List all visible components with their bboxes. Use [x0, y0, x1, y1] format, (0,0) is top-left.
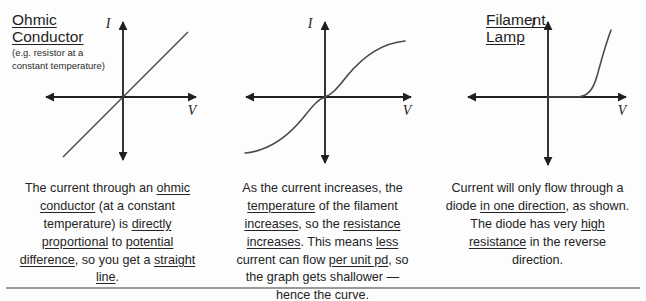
graph-filament-lamp: I V: [215, 0, 430, 178]
x-axis-label-diode: V: [618, 103, 628, 118]
curve-diode: [548, 30, 611, 97]
panel-subtitle-ohmic-line2: constant temperature): [12, 60, 105, 72]
graph-diode: I V: [430, 0, 645, 178]
panel-title-ohmic-line1: Ohmic: [12, 11, 105, 28]
panel-title-ohmic-line2: Conductor: [12, 28, 105, 45]
y-axis-label-ohmic: I: [105, 16, 112, 31]
panel-subtitle-ohmic-line1: (e.g. resistor at a: [12, 47, 105, 59]
iv-characteristics-figure: I V Ohmic Conductor (e.g. resistor at a …: [0, 0, 646, 301]
caption-diode: Current will only flow through a diode i…: [430, 178, 645, 283]
panel-title-ohmic: Ohmic Conductor (e.g. resistor at a cons…: [12, 11, 105, 71]
y-axis-label-filament: I: [307, 16, 314, 31]
panel-ohmic-conductor: I V Ohmic Conductor (e.g. resistor at a …: [0, 0, 215, 178]
footer-divider: [6, 287, 640, 289]
panel-diode: I V Diode: [430, 0, 645, 178]
x-axis-label-filament: V: [403, 103, 413, 118]
caption-row: The current through an ohmic conductor (…: [0, 178, 646, 283]
caption-ohmic-conductor: The current through an ohmic conductor (…: [0, 178, 215, 283]
panel-filament-lamp: I V Filament Lamp: [215, 0, 430, 178]
caption-filament-lamp: As the current increases, the temperatur…: [215, 178, 430, 283]
y-axis-label-diode: I: [530, 16, 537, 31]
x-axis-label-ohmic: V: [188, 103, 198, 118]
